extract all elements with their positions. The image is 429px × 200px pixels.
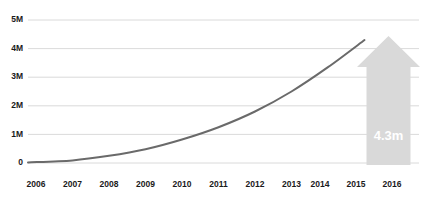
x-tick-2016: 2016 [383, 179, 402, 189]
up-arrow-icon [357, 36, 420, 165]
y-tick-5m: 5M [11, 14, 23, 24]
x-tick-2010: 2010 [173, 179, 192, 189]
x-tick-2012: 2012 [246, 179, 265, 189]
y-tick-1m: 1M [11, 129, 23, 139]
chart-canvas: 5M 4M 3M 2M 1M 0 4.3m 2006 2007 2008 200… [0, 0, 429, 200]
y-tick-2m: 2M [11, 100, 23, 110]
y-axis-tick-labels: 5M 4M 3M 2M 1M 0 [11, 14, 23, 167]
x-tick-2008: 2008 [100, 179, 119, 189]
x-tick-2006: 2006 [27, 179, 46, 189]
growth-projection-chart: 5M 4M 3M 2M 1M 0 4.3m 2006 2007 2008 200… [0, 0, 429, 200]
x-tick-2007: 2007 [63, 179, 82, 189]
x-axis-tick-labels: 2006 2007 2008 2009 2010 2011 2012 2013 … [27, 179, 402, 189]
y-tick-3m: 3M [11, 71, 23, 81]
x-tick-2011: 2011 [209, 179, 228, 189]
x-tick-2009: 2009 [136, 179, 155, 189]
x-tick-2015: 2015 [347, 179, 366, 189]
y-tick-4m: 4M [11, 43, 23, 53]
projection-arrow: 4.3m [357, 36, 420, 165]
x-tick-2013: 2013 [282, 179, 301, 189]
y-tick-0: 0 [18, 157, 23, 167]
growth-curve-line [28, 40, 365, 162]
gridlines [28, 20, 419, 163]
arrow-value-label: 4.3m [374, 128, 404, 143]
x-tick-2014: 2014 [311, 179, 330, 189]
